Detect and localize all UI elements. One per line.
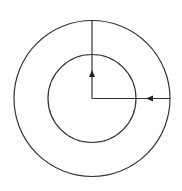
concentric-circles-diagram — [0, 0, 182, 191]
up-arrow-icon — [89, 70, 95, 77]
left-arrow-icon — [146, 96, 153, 102]
